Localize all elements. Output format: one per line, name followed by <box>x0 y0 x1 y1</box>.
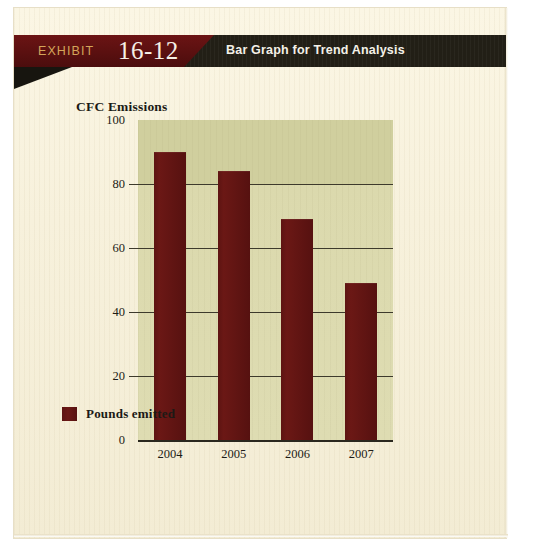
x-axis-tick-label: 2006 <box>266 447 328 462</box>
plot-area: 020406080100 2004200520062007 <box>138 120 393 440</box>
tick-mark <box>129 376 138 377</box>
y-axis-tick-label: 100 <box>106 113 125 128</box>
exhibit-title: Bar Graph for Trend Analysis <box>226 43 405 57</box>
legend-label: Pounds emitted <box>86 406 175 422</box>
exhibit-number: 16-12 <box>118 37 179 65</box>
y-axis-tick-label: 0 <box>119 433 125 448</box>
bar <box>345 283 377 440</box>
exhibit-label: EXHIBIT <box>38 44 94 58</box>
legend-swatch <box>62 407 77 421</box>
x-axis-tick-label: 2005 <box>203 447 265 462</box>
chart-legend: Pounds emitted <box>62 406 175 422</box>
tick-mark <box>129 248 138 249</box>
tick-mark <box>129 312 138 313</box>
bar <box>154 152 186 440</box>
x-axis-tick-label: 2004 <box>139 447 201 462</box>
exhibit-banner: EXHIBIT 16-12 Bar Graph for Trend Analys… <box>14 35 506 67</box>
y-axis-tick-label: 20 <box>113 369 126 384</box>
bar <box>218 171 250 440</box>
tick-mark <box>129 184 138 185</box>
y-axis-tick-label: 60 <box>113 241 126 256</box>
bar <box>281 219 313 440</box>
x-axis-tick-label: 2007 <box>330 447 392 462</box>
x-axis-line <box>138 440 393 442</box>
bar-chart: CFC Emissions 020406080100 2004200520062… <box>14 67 506 538</box>
y-axis-tick-label: 40 <box>113 305 126 320</box>
y-axis-tick-label: 80 <box>113 177 126 192</box>
